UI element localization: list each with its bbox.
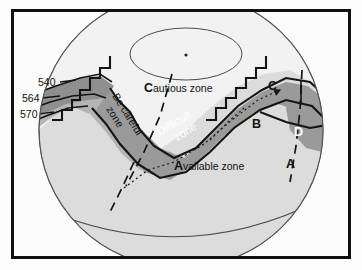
- region-letter-b: B: [252, 117, 261, 131]
- figure-root: 540 564 570 C autious zone A vailable zo…: [0, 0, 362, 270]
- available-zone-rest: vailable zone: [183, 160, 244, 172]
- figure-frame: 540 564 570 C autious zone A vailable zo…: [11, 9, 351, 259]
- available-zone-label: A vailable zone: [174, 159, 244, 173]
- region-letter-d: D: [294, 125, 303, 139]
- zone-map-svg: 540 564 570 C autious zone A vailable zo…: [14, 12, 348, 256]
- cautious-zone-rest: autious zone: [153, 82, 213, 94]
- cautious-zone-label: C autious zone: [144, 81, 213, 95]
- contour-label-564: 564: [22, 92, 40, 104]
- contour-label-570: 570: [20, 108, 38, 120]
- available-zone-cap: A: [174, 159, 183, 173]
- region-letter-c: C: [268, 79, 277, 93]
- region-letter-a: A: [286, 157, 295, 171]
- contour-label-540: 540: [38, 76, 56, 88]
- pole-point: [184, 53, 187, 56]
- cautious-zone-cap: C: [144, 81, 153, 95]
